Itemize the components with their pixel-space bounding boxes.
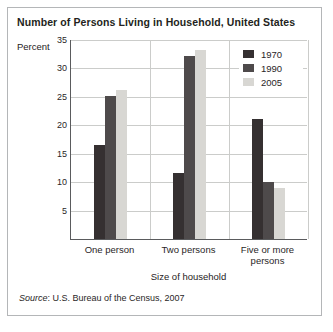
bar-group-1 <box>71 40 150 239</box>
x-axis-title: Size of household <box>70 271 307 282</box>
x-category-label-1: One person <box>70 244 149 255</box>
legend-label-1970: 1970 <box>261 49 282 60</box>
bar-1990-3 <box>263 182 274 239</box>
chart-figure: Number of Persons Living in Household, U… <box>7 7 322 316</box>
legend-label-1990: 1990 <box>261 63 282 74</box>
source-text: : U.S. Bureau of the Census, 2007 <box>48 293 185 303</box>
legend-row-1990: 1990 <box>243 61 301 75</box>
source-label: Source <box>19 293 48 303</box>
bar-1970-3 <box>252 119 263 239</box>
bar-group-2 <box>150 40 229 239</box>
y-tick-10: 10 <box>41 177 67 187</box>
y-tick-5: 5 <box>41 206 67 216</box>
y-tick-25: 25 <box>41 92 67 102</box>
legend: 197019902005 <box>239 44 303 92</box>
source-note: Source: U.S. Bureau of the Census, 2007 <box>19 293 185 303</box>
legend-label-2005: 2005 <box>261 77 282 88</box>
x-category-label-2: Two persons <box>149 244 228 255</box>
legend-row-1970: 1970 <box>243 47 301 61</box>
bar-1970-2 <box>173 173 184 239</box>
y-tick-15: 15 <box>41 149 67 159</box>
y-tick-30: 30 <box>41 63 67 73</box>
legend-swatch-2005 <box>243 78 254 86</box>
bar-1990-1 <box>105 96 116 239</box>
bar-2005-3 <box>274 188 285 239</box>
legend-swatch-1990 <box>243 64 254 72</box>
bar-2005-1 <box>116 90 127 239</box>
chart-title: Number of Persons Living in Household, U… <box>17 16 317 28</box>
legend-row-2005: 2005 <box>243 75 301 89</box>
x-category-label-3: Five or more persons <box>228 244 307 267</box>
bar-2005-2 <box>195 50 206 239</box>
y-tick-20: 20 <box>41 120 67 130</box>
legend-swatch-1970 <box>243 50 254 58</box>
y-tick-35: 35 <box>41 35 67 45</box>
bar-1990-2 <box>184 56 195 239</box>
plot-area: 5101520253035197019902005 <box>70 40 307 240</box>
bar-1970-1 <box>94 145 105 239</box>
